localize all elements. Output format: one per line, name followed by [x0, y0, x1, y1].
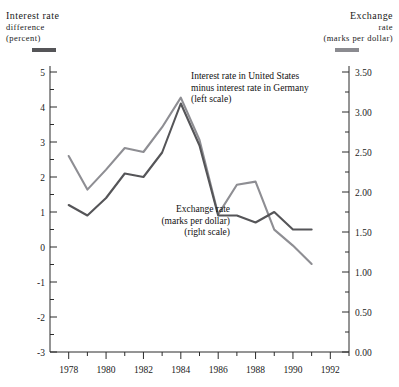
right-axis-title-line2: rate [378, 22, 393, 32]
right-axis: 3.503.002.502.001.501.000.500.00 [342, 66, 372, 358]
annotation-exchange-rate: Exchange rate (marks per dollar) (right … [122, 204, 230, 239]
right-axis-tick-label: 1.50 [355, 228, 372, 238]
left-axis-tick-label: -2 [37, 313, 45, 323]
figure: Interest rate difference (percent) Excha… [0, 0, 399, 387]
legend-swatch-left-series [32, 48, 56, 52]
annotation-exchange-line2: (marks per dollar) [161, 216, 230, 226]
right-axis-title-line3: (marks per dollar) [324, 33, 393, 43]
x-axis: 19781980198219841986198819901992 [50, 352, 349, 375]
data-series-group [69, 98, 312, 264]
left-axis-tick-label: 3 [40, 138, 45, 148]
annotation-exchange-line1: Exchange rate [176, 204, 230, 214]
annotation-exchange-line3: (right scale) [184, 227, 230, 237]
right-axis-tick-label: 0.50 [355, 308, 372, 318]
right-axis-tick-label: 1.00 [355, 268, 372, 278]
right-axis-tick-label: 3.00 [355, 108, 372, 118]
x-axis-tick-label: 1992 [321, 365, 340, 375]
right-axis-tick-label: 2.50 [355, 148, 372, 158]
x-axis-tick-label: 1978 [59, 365, 78, 375]
left-axis-tick-label: 4 [40, 103, 45, 113]
x-axis-tick-label: 1990 [283, 365, 302, 375]
left-axis-tick-label: 5 [40, 68, 45, 78]
x-axis-tick-label: 1982 [134, 365, 153, 375]
x-axis-tick-label: 1984 [171, 365, 190, 375]
x-axis-tick-label: 1986 [209, 365, 228, 375]
left-axis-tick-label: 2 [40, 173, 45, 183]
left-axis-title-line3: (percent) [6, 33, 41, 43]
left-axis-tick-label: 0 [40, 243, 45, 253]
left-axis-title-line1: Interest rate [6, 10, 59, 21]
left-axis-title: Interest rate difference (percent) [6, 10, 59, 45]
annotation-interest-line3: (left scale) [191, 94, 231, 104]
chart-plot-area: 543210-1-2-3 3.503.002.502.001.501.000.5… [0, 0, 399, 387]
left-axis-title-line2: difference [6, 22, 45, 32]
left-axis-tick-label: -1 [37, 278, 45, 288]
left-axis: 543210-1-2-3 [37, 66, 57, 358]
legend-swatch-right-series [335, 48, 359, 52]
right-axis-tick-label: 0.00 [355, 348, 372, 358]
left-axis-tick-label: 1 [40, 208, 45, 218]
annotation-interest-line1: Interest rate in United States [191, 71, 299, 81]
right-axis-title-line1: Exchange [350, 10, 393, 21]
x-axis-tick-label: 1980 [97, 365, 116, 375]
left-axis-tick-label: -3 [37, 348, 45, 358]
right-axis-title: Exchange rate (marks per dollar) [324, 10, 393, 45]
annotation-interest-line2: minus interest rate in Germany [191, 83, 309, 93]
right-axis-tick-label: 2.00 [355, 188, 372, 198]
right-axis-tick-label: 3.50 [355, 68, 372, 78]
x-axis-tick-label: 1988 [246, 365, 265, 375]
annotation-interest-rate: Interest rate in United States minus int… [191, 71, 309, 106]
